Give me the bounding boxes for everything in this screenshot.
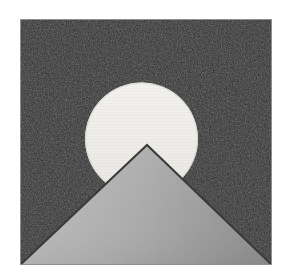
artwork-canvas: Mountain and Sun Square dark panel conta… xyxy=(0,0,288,275)
mountain-sun-illustration xyxy=(0,0,288,275)
